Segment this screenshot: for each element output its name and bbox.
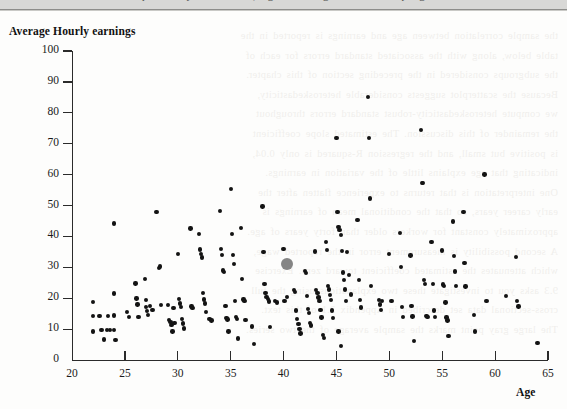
data-point — [181, 321, 185, 325]
data-point — [176, 252, 180, 256]
x-tick-mark — [124, 351, 125, 360]
y-tick-mark — [63, 143, 72, 144]
y-tick-label: 30 — [22, 259, 59, 271]
data-point — [232, 262, 236, 266]
x-tick-mark — [336, 351, 337, 360]
data-point — [235, 317, 239, 321]
data-point — [91, 314, 95, 318]
data-point — [401, 315, 405, 319]
data-point — [112, 328, 116, 332]
data-point — [190, 306, 194, 310]
data-point — [318, 308, 322, 312]
data-point — [366, 95, 370, 99]
y-tick-label: 70 — [22, 136, 59, 148]
data-point — [380, 299, 384, 303]
data-point — [446, 334, 450, 338]
data-point — [135, 302, 139, 306]
data-point — [462, 261, 466, 265]
data-point — [442, 284, 446, 288]
data-point — [367, 136, 371, 140]
data-point — [125, 310, 129, 314]
x-tick-label: 45 — [316, 367, 356, 379]
data-point — [327, 287, 331, 291]
data-point — [330, 308, 334, 312]
x-tick-mark — [442, 351, 443, 360]
x-tick-label: 50 — [369, 367, 409, 379]
scatter-plot: Average Hourly earnings Age 010203040506… — [0, 0, 567, 409]
data-point — [136, 315, 140, 319]
data-point — [242, 299, 246, 303]
data-point — [275, 300, 279, 304]
data-point — [410, 314, 414, 318]
data-point — [359, 305, 363, 309]
data-point — [328, 293, 332, 297]
x-tick-label: 30 — [158, 367, 198, 379]
data-point — [252, 342, 256, 346]
y-tick-mark — [63, 298, 72, 299]
data-point — [285, 295, 289, 299]
data-point — [431, 282, 435, 286]
y-tick-label: 40 — [22, 228, 59, 240]
data-point — [339, 344, 343, 348]
data-point — [378, 302, 382, 306]
x-axis-line — [72, 360, 548, 361]
data-point — [433, 315, 437, 319]
data-point — [295, 317, 299, 321]
data-point — [454, 284, 458, 288]
data-point — [304, 271, 308, 275]
data-point — [223, 304, 227, 308]
y-tick-mark — [63, 236, 72, 237]
data-point — [355, 218, 359, 222]
data-point — [233, 299, 237, 303]
data-point — [440, 248, 444, 252]
data-point — [341, 270, 345, 274]
data-point — [340, 249, 344, 253]
data-point — [453, 269, 457, 273]
data-point — [317, 299, 321, 303]
x-axis-title: Age — [516, 386, 536, 398]
data-point — [222, 270, 226, 274]
data-point — [305, 294, 309, 298]
x-tick-mark — [283, 351, 284, 360]
data-point — [239, 226, 243, 230]
x-tick-label: 65 — [528, 367, 567, 379]
data-point — [329, 298, 333, 302]
data-point — [409, 304, 413, 308]
data-point — [112, 291, 116, 295]
data-point — [226, 329, 230, 333]
data-point — [171, 306, 175, 310]
data-point — [200, 255, 204, 259]
data-point — [336, 329, 340, 333]
y-axis-title: Average Hourly earnings — [9, 25, 136, 37]
data-point — [179, 305, 183, 309]
data-point — [452, 254, 456, 258]
data-point — [398, 231, 402, 235]
data-point — [143, 277, 147, 281]
data-point — [170, 329, 174, 333]
y-tick-mark — [63, 205, 72, 206]
data-point — [293, 290, 297, 294]
x-tick-label: 40 — [264, 367, 304, 379]
x-tick-label: 55 — [422, 367, 462, 379]
x-tick-label: 20 — [52, 367, 92, 379]
data-point — [112, 313, 116, 317]
data-point — [188, 226, 192, 230]
x-tick-mark — [177, 351, 178, 360]
data-point — [325, 248, 329, 252]
data-point — [347, 273, 351, 277]
data-point — [112, 221, 116, 225]
data-point — [463, 284, 467, 288]
y-tick-label: 80 — [22, 105, 59, 117]
data-point — [268, 325, 272, 329]
data-point — [296, 322, 300, 326]
data-point — [334, 136, 338, 140]
data-point — [379, 308, 383, 312]
data-point — [261, 250, 265, 254]
data-point — [230, 232, 234, 236]
data-point — [339, 233, 343, 237]
data-point — [309, 323, 313, 327]
y-tick-label: 60 — [22, 167, 59, 179]
y-tick-label: 50 — [22, 198, 59, 210]
data-point — [267, 299, 271, 303]
data-point — [322, 336, 326, 340]
